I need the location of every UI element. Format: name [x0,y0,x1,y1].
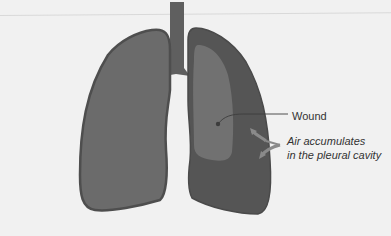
lungs-illustration [0,0,391,236]
air-label-line-2: in the pleural cavity [287,148,381,162]
left-lung [80,30,170,211]
air-label-line-1: Air accumulates [287,134,381,148]
air-accumulates-label: Air accumulates in the pleural cavity [287,134,381,162]
pneumothorax-diagram: Wound Air accumulates in the pleural cav… [0,0,391,236]
wound-label: Wound [292,110,327,122]
